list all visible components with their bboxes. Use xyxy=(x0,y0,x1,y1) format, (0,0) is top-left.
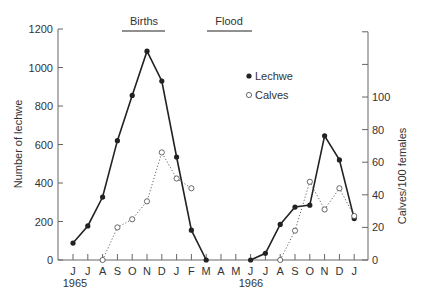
x-axis-tick-label: D xyxy=(335,265,343,277)
right-axis-tick-label: 100 xyxy=(372,91,390,103)
calves-point xyxy=(189,186,194,191)
right-axis-title: Calves/100 females xyxy=(396,127,408,224)
x-axis-tick-label: A xyxy=(277,265,285,277)
x-axis-tick-label: N xyxy=(321,265,329,277)
calves-point xyxy=(144,199,149,204)
x-axis-tick-label: D xyxy=(158,265,166,277)
left-axis-tick-label: 1200 xyxy=(29,23,53,35)
x-axis-tick-label: O xyxy=(306,265,315,277)
calves-point xyxy=(174,176,179,181)
left-axis-tick-label: 800 xyxy=(35,100,53,112)
x-axis-tick-label: S xyxy=(291,265,298,277)
lechwe-point xyxy=(159,78,164,83)
lechwe-point xyxy=(115,138,120,143)
births-annotation: Births xyxy=(130,15,159,27)
x-axis-tick-label: N xyxy=(143,265,151,277)
right-axis-tick-label: 80 xyxy=(372,124,384,136)
x-axis-tick-label: J xyxy=(351,265,357,277)
x-axis-tick-label: J xyxy=(85,265,91,277)
axes xyxy=(58,29,368,260)
x-axis-tick-label: F xyxy=(188,265,195,277)
lechwe-point xyxy=(85,223,90,228)
x-axis-tick-label: A xyxy=(99,265,107,277)
lechwe-point xyxy=(263,251,268,256)
legend-calves-label: Calves xyxy=(255,89,289,101)
right-axis-tick-label: 0 xyxy=(372,254,378,266)
lechwe-point xyxy=(130,93,135,98)
calves-point xyxy=(292,228,297,233)
right-axis-tick-label: 40 xyxy=(372,189,384,201)
calves-point xyxy=(322,207,327,212)
legend: Lechwe Calves xyxy=(246,70,293,101)
x-axis-tick-label: M xyxy=(231,265,240,277)
left-axis-tick-label: 600 xyxy=(35,139,53,151)
calves-line xyxy=(103,152,192,260)
calves-point xyxy=(100,257,105,262)
lechwe-point xyxy=(307,203,312,208)
calves-point xyxy=(352,213,357,218)
lechwe-chart: Number of lechwe Calves/100 females 1965… xyxy=(0,0,421,301)
calves-point xyxy=(130,217,135,222)
lechwe-point xyxy=(189,228,194,233)
x-axis-tick-label: J xyxy=(248,265,254,277)
lechwe-line xyxy=(73,51,206,260)
lechwe-point xyxy=(278,222,283,227)
calves-point xyxy=(307,179,312,184)
calves-point xyxy=(115,225,120,230)
calves-point xyxy=(337,186,342,191)
x-axis-tick-label: M xyxy=(202,265,211,277)
x-axis-tick-label: O xyxy=(128,265,137,277)
lechwe-point xyxy=(144,49,149,54)
labels: Number of lechwe Calves/100 females 1965… xyxy=(12,15,408,289)
left-axis-tick-label: 400 xyxy=(35,177,53,189)
left-axis-tick-label: 200 xyxy=(35,216,53,228)
left-axis-title: Number of lechwe xyxy=(12,100,24,189)
lechwe-point xyxy=(248,257,253,262)
legend-lechwe-label: Lechwe xyxy=(255,70,293,82)
lechwe-point xyxy=(70,240,75,245)
year-1965-label: 1965 xyxy=(63,277,87,289)
lechwe-line xyxy=(251,136,355,260)
lechwe-point xyxy=(204,257,209,262)
right-axis-tick-label: 60 xyxy=(372,156,384,168)
legend-lechwe-marker xyxy=(246,73,251,78)
left-axis-tick-label: 1000 xyxy=(29,62,53,74)
calves-line xyxy=(280,182,354,260)
x-axis-tick-label: S xyxy=(114,265,121,277)
series xyxy=(70,49,356,263)
calves-point xyxy=(159,150,164,155)
x-axis-tick-label: A xyxy=(217,265,225,277)
x-axis-tick-label: J xyxy=(263,265,269,277)
flood-annotation: Flood xyxy=(215,15,243,27)
lechwe-point xyxy=(337,157,342,162)
legend-calves-marker xyxy=(246,92,251,97)
lechwe-point xyxy=(292,204,297,209)
x-axis-tick-label: J xyxy=(174,265,180,277)
right-axis-tick-label: 20 xyxy=(372,221,384,233)
calves-point xyxy=(278,257,283,262)
lechwe-point xyxy=(100,194,105,199)
left-axis-tick-label: 0 xyxy=(47,254,53,266)
lechwe-point xyxy=(322,133,327,138)
year-1966-label: 1966 xyxy=(239,277,263,289)
lechwe-point xyxy=(174,154,179,159)
x-axis-tick-label: J xyxy=(70,265,76,277)
